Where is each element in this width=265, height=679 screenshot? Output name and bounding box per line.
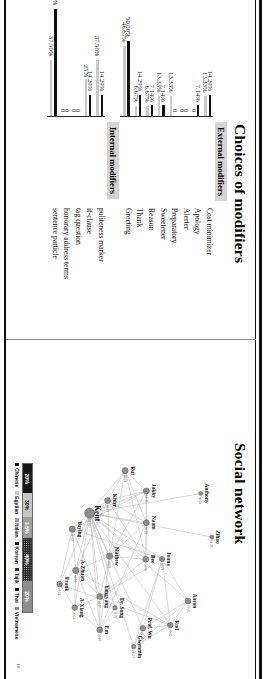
category-label: Preparatory bbox=[170, 208, 179, 243]
legend-key-label: Tajik bbox=[14, 573, 20, 584]
legend-segment: 3.5% bbox=[23, 517, 32, 538]
bar-series-a bbox=[127, 41, 129, 116]
legend-stacked-bar: 20%30%3.5%40%20% bbox=[22, 463, 33, 613]
legend-key-label: Vietnamese bbox=[14, 612, 20, 640]
legend-segment: 30% bbox=[23, 493, 32, 517]
bar-value-label: 13.33% bbox=[168, 72, 175, 92]
bar-series-b bbox=[96, 60, 98, 116]
network-node-id: id-14 bbox=[57, 588, 61, 595]
legend-segment: 40% bbox=[23, 538, 32, 581]
bar-value-label: 0 bbox=[172, 109, 179, 112]
bar-value-label: 0 bbox=[191, 109, 198, 112]
bar-value-label: 71.43% bbox=[52, 0, 59, 5]
bar-series-b bbox=[204, 96, 206, 116]
legend-key-label: Italian bbox=[14, 523, 20, 537]
bar-series-b bbox=[85, 79, 87, 117]
network-node-id: id-25 bbox=[209, 541, 213, 548]
bar-value-label: 7.14% bbox=[195, 85, 202, 102]
network-node-label: Jakky bbox=[151, 484, 157, 498]
bar-value-label: 6.67% bbox=[144, 85, 151, 102]
legend-segment: 20% bbox=[23, 464, 32, 493]
panel-title-modifiers: Choices of modifiers bbox=[231, 124, 249, 263]
network-node-label: Gwenmin bbox=[137, 636, 143, 658]
legend-swatch-icon bbox=[15, 568, 18, 571]
network-node-id: id-08 bbox=[107, 561, 111, 568]
slide: Choices of modifiers Social network Exte… bbox=[0, 0, 265, 679]
slide-stage: Choices of modifiers Social network Exte… bbox=[0, 0, 265, 679]
network-node-id: id-05 bbox=[97, 634, 101, 641]
bar-series-a bbox=[162, 105, 164, 116]
network-node-label: Rui bbox=[130, 466, 136, 474]
bar-value-label: 13.33% bbox=[156, 72, 163, 92]
network-node-id: id-01 bbox=[87, 520, 91, 527]
network-node-label: Anthony bbox=[204, 483, 210, 503]
legend-key: Tajik bbox=[14, 568, 20, 584]
bar-series-a bbox=[209, 95, 211, 116]
legend-swatch-icon bbox=[15, 491, 18, 494]
network-node-label: Zihao bbox=[215, 530, 221, 543]
network-node-label: Naom bbox=[151, 516, 157, 530]
bar-value-label: 46.67% bbox=[121, 22, 128, 42]
legend-key-label: Egytian bbox=[14, 496, 20, 514]
legend-key: Egytian bbox=[14, 491, 20, 514]
legend-key: Korean bbox=[14, 542, 20, 564]
bar-value-label: 0 bbox=[60, 109, 67, 112]
legend-key-label: Thai bbox=[14, 593, 20, 603]
network-node-id: id-06 bbox=[113, 612, 117, 619]
network-node-label: A-Xiang bbox=[79, 598, 85, 617]
bar-series-b bbox=[135, 106, 137, 116]
legend-key: Chinese bbox=[14, 463, 20, 487]
network-node-label: Aaron bbox=[192, 594, 198, 609]
bar-series-a bbox=[101, 95, 103, 116]
social-network-graph: Zihaoid-25Anthonyid-24Joanaid-19Aaronid-… bbox=[39, 351, 235, 669]
frame-top-rule bbox=[259, 0, 262, 679]
network-node-id: id-11 bbox=[144, 495, 148, 502]
network-node-label: Mathew bbox=[114, 547, 120, 566]
bar-value-label: 14.29% bbox=[99, 71, 106, 91]
category-label: Reason bbox=[147, 208, 156, 230]
network-node-id: id-23 bbox=[131, 650, 135, 657]
bar-series-a bbox=[54, 9, 56, 116]
category-label: Greeting bbox=[124, 208, 133, 235]
bar-value-label: 0 bbox=[179, 109, 186, 112]
page-number: 18 bbox=[16, 663, 21, 668]
bar-series-a bbox=[151, 105, 153, 116]
bar-value-label: 37.50% bbox=[48, 36, 55, 56]
category-label: politeness marker bbox=[97, 208, 106, 262]
network-node-label: Frank bbox=[64, 577, 70, 591]
bar-value-label: 25% bbox=[83, 65, 90, 77]
bar-value-label: 6.67% bbox=[133, 85, 140, 102]
bar-value-label: 13.33% bbox=[202, 72, 209, 92]
category-label: Thank bbox=[135, 208, 144, 227]
legend-swatch-icon bbox=[15, 588, 18, 591]
category-label: Cost minimizer bbox=[205, 208, 214, 255]
network-node-label: Bee bbox=[150, 555, 156, 563]
legend-key: Italian bbox=[14, 518, 20, 537]
panel-divider bbox=[6, 339, 256, 340]
network-node-label: Prof. Wu bbox=[147, 618, 153, 639]
legend-key: Thai bbox=[14, 588, 20, 603]
bar-series-a bbox=[89, 95, 91, 116]
category-label: Apology bbox=[193, 208, 202, 235]
network-node-label: Em bbox=[104, 626, 110, 634]
network-node-id: id-04 bbox=[72, 612, 76, 619]
network-node-id: id-19 bbox=[160, 563, 164, 570]
section-heading-internal: Internal modifiers bbox=[107, 122, 119, 199]
network-node-label: Joana bbox=[166, 552, 172, 566]
legend-swatch-icon bbox=[15, 463, 18, 466]
bar-series-b bbox=[123, 46, 125, 116]
network-node-id: id-10 bbox=[144, 527, 148, 534]
category-label: Alerter bbox=[182, 208, 191, 230]
network-node-id: id-21 bbox=[186, 605, 190, 612]
network-node-label: A-Zhuan bbox=[80, 560, 86, 581]
network-node-id: id-22 bbox=[168, 629, 172, 636]
network-node-label: Yangyang bbox=[104, 585, 110, 608]
legend-key-label: Chinese bbox=[14, 468, 20, 487]
legend-segment: 20% bbox=[23, 581, 32, 612]
bar-series-b bbox=[158, 96, 160, 116]
network-node-label: Khizr bbox=[112, 494, 118, 507]
network-node-id: id-03 bbox=[73, 575, 77, 582]
bar-value-label: 0 bbox=[71, 109, 78, 112]
network-node-label: Yuying bbox=[77, 521, 83, 537]
legend-swatch-icon bbox=[15, 607, 18, 610]
